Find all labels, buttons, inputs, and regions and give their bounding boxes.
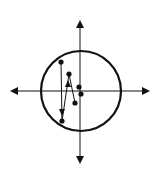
data-point <box>58 59 63 64</box>
data-point <box>76 84 81 89</box>
data-point <box>78 91 83 96</box>
data-point <box>72 100 77 105</box>
trajectory-diagram <box>0 0 163 172</box>
data-point <box>59 118 64 123</box>
data-point <box>66 71 71 76</box>
direction-arrow-down-icon <box>59 109 65 116</box>
